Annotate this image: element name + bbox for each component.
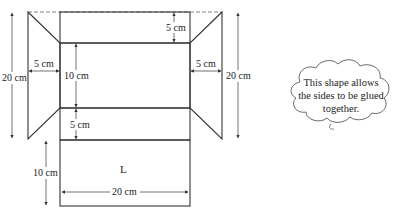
base-letter-label: L bbox=[120, 163, 127, 175]
right-glue-flap bbox=[190, 12, 222, 139]
left-glue-flap bbox=[28, 12, 60, 139]
right-flap-5cm-label: 5 cm bbox=[196, 58, 216, 69]
base-10cm-label: 10 cm bbox=[33, 167, 58, 178]
callout-line-3: together. bbox=[323, 103, 359, 114]
callout-line-1: This shape allows bbox=[303, 77, 378, 88]
cloud-tail bbox=[330, 124, 334, 129]
callout-line-2: the sides to be glued bbox=[298, 90, 384, 101]
left-20cm-label: 20 cm bbox=[2, 72, 27, 83]
right-20cm-label: 20 cm bbox=[226, 70, 251, 81]
box-net-diagram: 5 cm 10 cm 5 cm 5 cm 5 cm 20 cm 20 cm 10… bbox=[0, 0, 397, 212]
left-flap-5cm-label: 5 cm bbox=[34, 58, 54, 69]
middle-10cm-label: 10 cm bbox=[64, 70, 89, 81]
top-5cm-label: 5 cm bbox=[166, 22, 186, 33]
lower-5cm-label: 5 cm bbox=[70, 119, 90, 130]
base-20cm-label: 20 cm bbox=[112, 186, 137, 197]
